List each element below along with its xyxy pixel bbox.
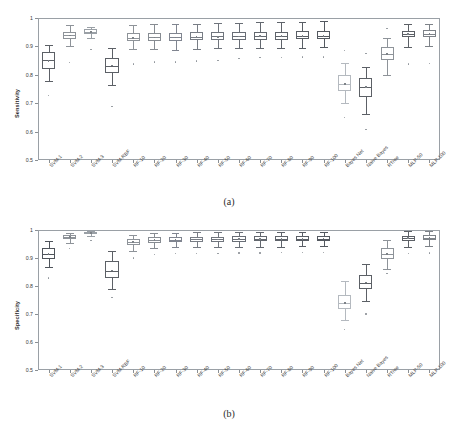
whisker-upper bbox=[281, 22, 282, 31]
whisker-cap-upper bbox=[172, 24, 180, 25]
whisker-cap-upper bbox=[108, 48, 116, 49]
mean-marker bbox=[407, 237, 409, 239]
whisker-cap-upper bbox=[150, 233, 158, 234]
whisker-upper bbox=[387, 38, 388, 47]
whisker-lower bbox=[112, 278, 113, 289]
y-tick-label: 0.9 bbox=[12, 43, 33, 49]
whisker-cap-upper bbox=[129, 25, 137, 26]
y-tick-mark bbox=[35, 370, 38, 371]
panel-b: Specificity 0.50.60.70.80.91SVM-1SVM-2SV… bbox=[0, 218, 458, 435]
whisker-lower bbox=[366, 289, 367, 302]
whisker-cap-upper bbox=[256, 232, 264, 233]
whisker-upper bbox=[49, 241, 50, 249]
whisker-cap-lower bbox=[214, 247, 222, 248]
whisker-cap-lower bbox=[362, 114, 370, 115]
whisker-cap-upper bbox=[362, 67, 370, 68]
mean-marker bbox=[238, 36, 240, 38]
y-tick-label: 0.9 bbox=[12, 255, 33, 261]
whisker-cap-lower bbox=[341, 320, 349, 321]
y-tick-label: 0.7 bbox=[12, 100, 33, 106]
whisker-cap-upper bbox=[214, 23, 222, 24]
mean-marker bbox=[429, 237, 431, 239]
whisker-lower bbox=[49, 69, 50, 81]
whisker-cap-lower bbox=[150, 49, 158, 50]
mean-marker bbox=[259, 35, 261, 37]
outlier-point bbox=[175, 61, 176, 62]
whisker-cap-upper bbox=[341, 281, 349, 282]
whisker-upper bbox=[154, 24, 155, 33]
panel-a: Sensitivity 0.50.60.70.80.91SVM-1SVM-2SV… bbox=[0, 0, 458, 220]
whisker-lower bbox=[387, 259, 388, 270]
whisker-cap-lower bbox=[320, 47, 328, 48]
whisker-cap-lower bbox=[66, 46, 74, 47]
whisker-cap-upper bbox=[383, 38, 391, 39]
outlier-point bbox=[238, 252, 239, 253]
whisker-cap-lower bbox=[256, 247, 264, 248]
whisker-cap-lower bbox=[362, 301, 370, 302]
whisker-cap-upper bbox=[277, 22, 285, 23]
whisker-cap-upper bbox=[277, 232, 285, 233]
whisker-upper bbox=[408, 24, 409, 31]
y-tick-mark bbox=[35, 314, 38, 315]
mean-marker bbox=[217, 36, 219, 38]
y-tick-mark bbox=[35, 18, 38, 19]
whisker-cap-upper bbox=[256, 22, 264, 23]
y-tick-label: 0.8 bbox=[12, 283, 33, 289]
outlier-point bbox=[259, 252, 260, 253]
y-tick-mark bbox=[35, 103, 38, 104]
mean-marker bbox=[259, 238, 261, 240]
whisker-cap-lower bbox=[235, 247, 243, 248]
whisker-upper bbox=[218, 23, 219, 32]
whisker-cap-upper bbox=[172, 233, 180, 234]
mean-marker bbox=[154, 239, 156, 241]
whisker-upper bbox=[176, 24, 177, 33]
whisker-cap-upper bbox=[425, 24, 433, 25]
y-tick-mark bbox=[35, 46, 38, 47]
caption-b: (b) bbox=[0, 408, 458, 419]
whisker-cap-lower bbox=[383, 269, 391, 270]
mean-marker bbox=[238, 238, 240, 240]
y-tick-mark bbox=[35, 342, 38, 343]
mean-marker bbox=[217, 239, 219, 241]
whisker-lower bbox=[70, 39, 71, 46]
whisker-cap-upper bbox=[129, 235, 137, 236]
outlier-point bbox=[133, 257, 134, 258]
whisker-lower bbox=[239, 40, 240, 49]
whisker-cap-upper bbox=[425, 231, 433, 232]
whisker-cap-upper bbox=[193, 232, 201, 233]
boxplot-figure: Sensitivity 0.50.60.70.80.91SVM-1SVM-2SV… bbox=[0, 0, 458, 435]
whisker-lower bbox=[387, 60, 388, 75]
whisker-upper bbox=[133, 25, 134, 33]
y-tick-label: 0.8 bbox=[12, 72, 33, 78]
outlier-point bbox=[365, 313, 366, 314]
whisker-cap-lower bbox=[87, 236, 95, 237]
whisker-lower bbox=[49, 259, 50, 267]
mean-marker bbox=[111, 65, 113, 67]
mean-marker bbox=[90, 31, 92, 33]
whisker-upper bbox=[366, 67, 367, 78]
whisker-cap-upper bbox=[383, 240, 391, 241]
y-tick-label: 0.6 bbox=[12, 129, 33, 135]
y-tick-label: 0.5 bbox=[12, 157, 33, 163]
whisker-upper bbox=[112, 251, 113, 261]
whisker-cap-lower bbox=[383, 75, 391, 76]
whisker-upper bbox=[49, 45, 50, 52]
whisker-cap-upper bbox=[193, 24, 201, 25]
whisker-lower bbox=[260, 40, 261, 48]
mean-marker bbox=[48, 60, 50, 62]
outlier-point bbox=[217, 253, 218, 254]
whisker-cap-lower bbox=[172, 247, 180, 248]
mean-marker bbox=[386, 253, 388, 255]
whisker-upper bbox=[302, 22, 303, 32]
mean-marker bbox=[69, 35, 71, 37]
whisker-lower bbox=[281, 40, 282, 48]
mean-marker bbox=[344, 302, 346, 304]
whisker-lower bbox=[176, 41, 177, 50]
y-tick-mark bbox=[35, 258, 38, 259]
whisker-cap-lower bbox=[341, 103, 349, 104]
whisker-upper bbox=[345, 63, 346, 74]
whisker-cap-upper bbox=[235, 23, 243, 24]
outlier-point bbox=[386, 273, 387, 274]
mean-marker bbox=[90, 232, 92, 234]
mean-marker bbox=[323, 35, 325, 37]
